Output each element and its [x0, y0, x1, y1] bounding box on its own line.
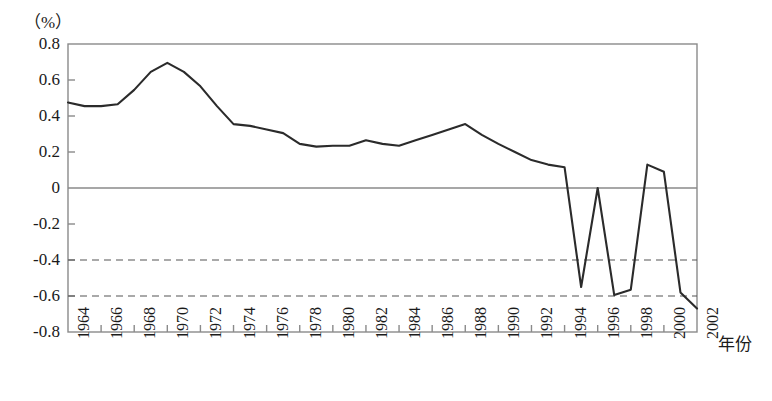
x-tick-label: 1980 [340, 307, 358, 339]
x-tick-label: 1964 [75, 307, 93, 339]
x-tick-label: 2002 [704, 307, 722, 339]
y-tick-label: 0 [8, 178, 60, 198]
x-tick-label: 1966 [108, 307, 126, 339]
x-tick-label: 1974 [241, 307, 259, 339]
x-tick-label: 1970 [174, 307, 192, 339]
x-tick-label: 1986 [439, 307, 457, 339]
y-tick-label: 0.4 [8, 106, 60, 126]
y-tick-label: -0.4 [8, 250, 60, 270]
x-tick-label: 1994 [572, 307, 590, 339]
x-tick-label: 1998 [638, 307, 656, 339]
x-tick-label: 1982 [373, 307, 391, 339]
y-tick-label: 0.6 [8, 70, 60, 90]
data-series-line [68, 63, 697, 309]
x-tick-label: 1992 [538, 307, 556, 339]
y-tick-label: 0.2 [8, 142, 60, 162]
reference-lines [68, 260, 697, 296]
y-tick-label: -0.2 [8, 214, 60, 234]
line-chart-plot [0, 0, 772, 401]
x-tick-label: 1996 [605, 307, 623, 339]
x-tick-label: 1978 [307, 307, 325, 339]
y-tick-label: -0.6 [8, 286, 60, 306]
chart-container: （%） 年份 0.80.60.40.20-0.2-0.4-0.6-0.8 196… [0, 0, 772, 401]
x-tick-label: 1972 [207, 307, 225, 339]
x-tick-label: 1984 [406, 307, 424, 339]
x-tick-label: 1988 [472, 307, 490, 339]
x-tick-label: 1990 [505, 307, 523, 339]
y-tick-label: 0.8 [8, 34, 60, 54]
x-tick-label: 2000 [671, 307, 689, 339]
y-tick-label: -0.8 [8, 322, 60, 342]
x-tick-label: 1976 [274, 307, 292, 339]
x-tick-label: 1968 [141, 307, 159, 339]
